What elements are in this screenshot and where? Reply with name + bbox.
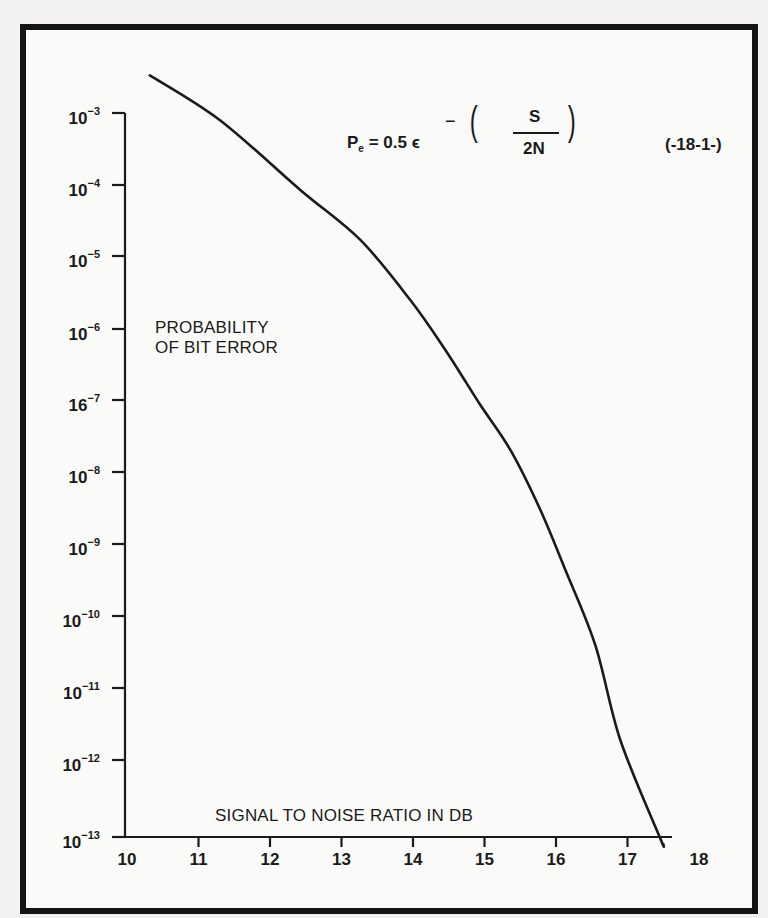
x-tick-label: 17 <box>608 850 648 870</box>
y-axis-label: PROBABILITY OF BIT ERROR <box>155 318 278 358</box>
y-tick-label: 10−12 <box>40 751 100 775</box>
formula-exponent-sign: − <box>445 111 456 132</box>
error-probability-curve <box>150 75 664 846</box>
formula-lhs: Pe = 0.5 ϵ <box>347 133 420 154</box>
y-tick-label: 10−8 <box>40 463 100 487</box>
y-tick-label: 10−13 <box>40 828 100 852</box>
x-tick-label: 12 <box>250 850 290 870</box>
x-tick-label: 14 <box>393 850 433 870</box>
y-axis-label-line2: OF BIT ERROR <box>155 338 278 358</box>
y-tick-label: 10−3 <box>40 104 100 128</box>
y-tick-label: 16−7 <box>40 391 100 415</box>
formula-fraction-bar <box>513 132 559 134</box>
formula-right-paren: ) <box>568 99 576 144</box>
y-tick-label: 10−6 <box>40 320 100 344</box>
formula-denominator: 2N <box>523 139 545 159</box>
x-tick-label: 13 <box>322 850 362 870</box>
y-axis-label-line1: PROBABILITY <box>155 318 278 338</box>
axes <box>112 113 672 847</box>
formula: Pe = 0.5 ϵ − ( S 2N ) (-18-1-) <box>345 97 745 167</box>
x-axis-label: SIGNAL TO NOISE RATIO IN DB <box>215 806 473 826</box>
formula-numerator: S <box>529 107 540 127</box>
y-tick-label: 10−9 <box>40 535 100 559</box>
equation-number: (-18-1-) <box>665 135 722 155</box>
y-tick-label: 10−10 <box>40 607 100 631</box>
x-tick-label: 16 <box>536 850 576 870</box>
y-tick-label: 10−11 <box>40 679 100 703</box>
formula-left-paren: ( <box>470 99 478 144</box>
x-tick-label: 11 <box>179 850 219 870</box>
x-tick-label: 10 <box>107 850 147 870</box>
y-tick-label: 10−5 <box>40 247 100 271</box>
x-tick-label: 18 <box>679 850 719 870</box>
x-tick-label: 15 <box>465 850 505 870</box>
y-tick-label: 10−4 <box>40 176 100 200</box>
